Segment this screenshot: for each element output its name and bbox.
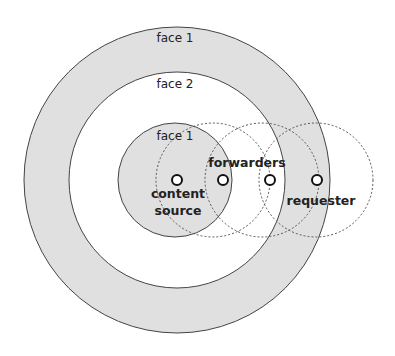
content-label-line1: content: [151, 186, 205, 201]
forwarder-1-node: [218, 175, 228, 185]
face-diagram: face 1 face 2 face 1 forwarders content …: [0, 0, 395, 356]
inner-face-1-label: face 1: [156, 129, 193, 143]
requester-label: requester: [286, 193, 356, 208]
forwarder-2-node: [265, 175, 275, 185]
content-source-node: [172, 175, 182, 185]
face-2-label: face 2: [156, 77, 193, 91]
outer-face-1-label: face 1: [156, 31, 193, 45]
forwarders-label: forwarders: [208, 155, 285, 170]
content-label-line2: source: [155, 203, 202, 218]
requester-node: [312, 175, 322, 185]
